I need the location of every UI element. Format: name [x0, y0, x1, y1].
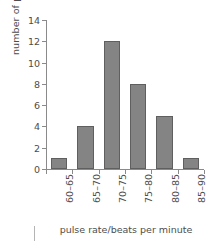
bar	[130, 84, 146, 169]
x-category-label: 65–70	[91, 174, 102, 220]
x-category-label: 80–85	[170, 174, 181, 220]
y-tick-mark	[42, 148, 46, 149]
bar	[183, 158, 199, 169]
y-tick-mark	[42, 20, 46, 21]
y-tick-mark	[42, 105, 46, 106]
y-axis-title: number of pupils	[10, 0, 24, 69]
y-tick-label: 2	[34, 142, 40, 153]
y-tick-label: 10	[28, 57, 40, 68]
x-category-label: 75–80	[143, 174, 154, 220]
bar	[156, 116, 172, 169]
y-tick-label: 12	[28, 36, 40, 47]
y-tick-label: 0	[34, 164, 40, 175]
y-tick-mark	[42, 126, 46, 127]
bar	[51, 158, 67, 169]
y-tick-label: 14	[28, 15, 40, 26]
bar	[104, 41, 120, 169]
x-category-label: 60–65	[64, 174, 75, 220]
x-axis-category-labels: 60–6565–7070–7575–8080–8585–90	[46, 176, 204, 222]
plot-area: 02468101214	[46, 20, 204, 170]
y-axis-line	[46, 20, 47, 170]
y-tick-mark	[42, 84, 46, 85]
y-tick-mark	[42, 41, 46, 42]
x-category-label: 85–90	[196, 174, 207, 220]
y-tick-label: 8	[34, 78, 40, 89]
y-tick-label: 4	[34, 121, 40, 132]
histogram-chart: number of pupils 02468101214 60–6565–707…	[0, 0, 216, 245]
x-axis-title: pulse rate/beats per minute	[46, 224, 206, 235]
y-tick-mark	[42, 63, 46, 64]
margin-mark	[34, 226, 35, 241]
bar	[77, 126, 93, 169]
y-tick-label: 6	[34, 100, 40, 111]
x-tick-mark	[46, 170, 47, 174]
x-category-label: 70–75	[117, 174, 128, 220]
